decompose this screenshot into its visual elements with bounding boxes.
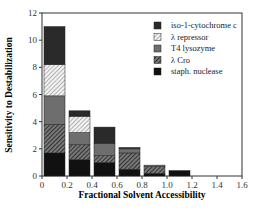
y-tick-label: 8: [33, 62, 38, 72]
bar-0.8-1.0: [144, 165, 165, 176]
bar-segment: [69, 160, 90, 176]
y-tick-label: 6: [33, 90, 38, 100]
legend-swatch: [154, 45, 161, 52]
bar-segment: [94, 156, 115, 163]
plot-area: 02468101200.20.40.60.81.01.21.41.6: [28, 8, 248, 190]
bar-1.0-1.2: [169, 171, 190, 176]
legend-swatch: [154, 22, 161, 29]
legend-entry: λ Cro: [154, 55, 190, 65]
bar-0.6-0.8: [119, 147, 140, 176]
bar-segment: [144, 166, 165, 173]
x-tick-label: 1.4: [211, 180, 223, 190]
bar-segment: [69, 116, 90, 132]
y-tick-label: 12: [28, 8, 37, 18]
legend-label: λ repressor: [171, 32, 209, 42]
bar-segment: [144, 173, 165, 176]
stacked-bar-chart: 02468101200.20.40.60.81.01.21.41.6 iso-1…: [0, 0, 269, 212]
y-tick-label: 10: [28, 35, 38, 45]
bar-0.2-0.4: [69, 111, 90, 176]
legend-swatch: [154, 57, 161, 64]
bar-segment: [119, 147, 140, 148]
x-tick-label: 1.6: [236, 180, 248, 190]
legend-entry: T4 lysozyme: [154, 43, 215, 53]
bar-0-0.2: [44, 27, 65, 176]
legend: iso-1-cytochrome cλ repressorT4 lysozyme…: [154, 20, 237, 76]
bar-segment: [94, 162, 115, 176]
y-tick-label: 0: [33, 171, 38, 181]
bar-segment: [169, 171, 190, 176]
bar-0.4-0.6: [94, 127, 115, 176]
bar-segment: [44, 96, 65, 125]
y-tick-label: 2: [33, 144, 38, 154]
x-tick-label: 0.2: [61, 180, 72, 190]
y-axis-label: Sensitivity to Destabilization: [4, 36, 14, 152]
x-tick-label: 1.2: [186, 180, 197, 190]
legend-entry: λ repressor: [154, 32, 209, 42]
x-tick-label: 0.6: [111, 180, 123, 190]
legend-swatch: [154, 34, 161, 41]
bar-segment: [44, 65, 65, 96]
bar-segment: [119, 153, 140, 169]
legend-label: T4 lysozyme: [171, 43, 215, 53]
legend-entry: staph. nuclease: [154, 66, 223, 76]
bar-segment: [69, 111, 90, 116]
x-tick-label: 0.4: [86, 180, 98, 190]
legend-swatch: [154, 68, 161, 75]
bar-segment: [94, 127, 115, 143]
legend-label: λ Cro: [171, 55, 190, 65]
bar-segment: [94, 143, 115, 155]
bar-segment: [119, 169, 140, 176]
x-axis-label: Fractional Solvent Accessibility: [78, 190, 205, 200]
bar-segment: [44, 153, 65, 176]
x-tick-label: 1.0: [161, 180, 173, 190]
bar-segment: [144, 165, 165, 166]
y-tick-label: 4: [33, 117, 38, 127]
chart-root: 02468101200.20.40.60.81.01.21.41.6 iso-1…: [0, 0, 269, 212]
bar-segment: [69, 133, 90, 145]
x-tick-label: 0: [40, 180, 45, 190]
legend-label: iso-1-cytochrome c: [171, 20, 237, 30]
bar-segment: [44, 124, 65, 153]
legend-entry: iso-1-cytochrome c: [154, 20, 237, 30]
bar-segment: [44, 27, 65, 65]
bar-segment: [119, 149, 140, 153]
legend-label: staph. nuclease: [171, 66, 223, 76]
bar-segment: [69, 145, 90, 160]
x-tick-label: 0.8: [136, 180, 148, 190]
